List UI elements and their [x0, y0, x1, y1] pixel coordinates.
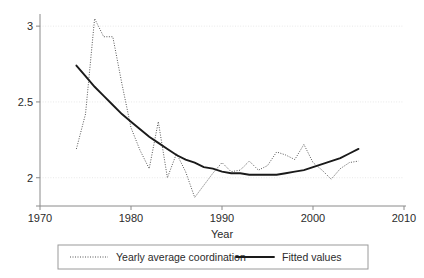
x-tick-label: 1980 — [119, 212, 143, 224]
x-axis-title: Year — [211, 228, 234, 240]
y-tick-label: 2.5 — [18, 96, 33, 108]
tick-labels: 32.5219701980199020002010 — [18, 20, 417, 224]
chart-legend: Yearly average coordinationFitted values — [58, 245, 368, 269]
chart-svg: 32.5219701980199020002010 Year Yearly av… — [0, 0, 424, 278]
gridlines — [40, 26, 404, 178]
x-tick-label: 2000 — [301, 212, 325, 224]
legend-label-0: Yearly average coordination — [116, 251, 246, 263]
legend-label-1: Fitted values — [282, 251, 342, 263]
x-tick-label: 1970 — [28, 212, 52, 224]
series-line-1 — [76, 66, 358, 175]
y-tick-label: 2 — [27, 172, 33, 184]
chart-figure: 32.5219701980199020002010 Year Yearly av… — [0, 0, 424, 278]
data-series — [76, 19, 358, 198]
x-tick-label: 1990 — [210, 212, 234, 224]
y-tick-label: 3 — [27, 20, 33, 32]
axes — [36, 14, 406, 210]
x-tick-label: 2010 — [392, 212, 416, 224]
